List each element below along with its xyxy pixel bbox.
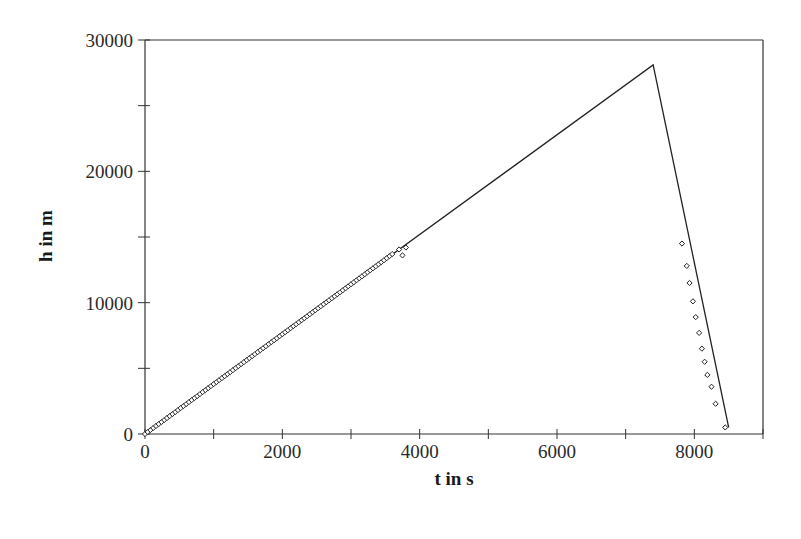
data-point-marker (713, 401, 718, 406)
data-point-marker (684, 263, 689, 268)
chart: 020004000600080000100002000030000 t in s… (0, 0, 801, 539)
y-tick-label: 0 (124, 424, 134, 445)
data-point-marker (679, 241, 684, 246)
tick-labels: 020004000600080000100002000030000 (86, 30, 714, 462)
x-tick-label: 2000 (263, 441, 301, 462)
data-point-marker (697, 330, 702, 335)
y-tick-label: 20000 (86, 161, 134, 182)
plot-frame (145, 40, 763, 434)
data-point-marker (705, 372, 710, 377)
axis-ticks (138, 40, 763, 439)
data-point-marker (400, 253, 405, 258)
data-markers (142, 241, 727, 437)
y-tick-label: 10000 (86, 293, 134, 314)
y-axis-title: h in m (35, 210, 56, 262)
x-tick-label: 0 (140, 441, 150, 462)
data-point-marker (687, 280, 692, 285)
data-point-marker (693, 315, 698, 320)
data-point-marker (723, 425, 728, 430)
data-point-marker (709, 384, 714, 389)
x-tick-label: 6000 (538, 441, 576, 462)
data-point-marker (702, 359, 707, 364)
y-tick-label: 30000 (86, 30, 134, 51)
data-point-marker (699, 346, 704, 351)
x-tick-label: 8000 (675, 441, 713, 462)
x-tick-label: 4000 (401, 441, 439, 462)
x-axis-title: t in s (434, 468, 473, 489)
model-line (145, 65, 729, 434)
data-point-marker (690, 299, 695, 304)
